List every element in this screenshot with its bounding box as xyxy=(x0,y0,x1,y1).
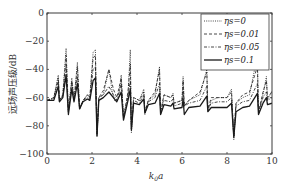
x-tick-label: 2 xyxy=(89,156,95,166)
x-tick-label: 0 xyxy=(44,156,50,166)
y-axis-label: 远场声压级/dB xyxy=(7,53,18,114)
y-tick-label: −80 xyxy=(25,121,44,131)
x-tick-label: 4 xyxy=(134,156,140,166)
y-tick-label: 0 xyxy=(38,8,44,18)
legend-label: ηs=0 xyxy=(224,16,247,26)
y-tick-label: −100 xyxy=(19,149,44,159)
x-tick-label: 10 xyxy=(266,156,278,166)
y-tick-label: −40 xyxy=(25,64,44,74)
x-axis-label-text: k0a xyxy=(149,171,164,182)
chart: 02468100−20−40−60−80−100 远场声压级/dB k0a ηs… xyxy=(0,0,283,186)
legend-label: ηs=0.01 xyxy=(224,29,260,39)
legend-label: ηs=0.05 xyxy=(224,42,260,52)
legend: ηs=0ηs=0.01ηs=0.05ηs=0.1 xyxy=(201,14,269,70)
y-tick-label: −20 xyxy=(25,36,44,46)
x-tick-label: 6 xyxy=(179,156,185,166)
y-axis-label-text: 远场声压级/dB xyxy=(7,53,18,114)
y-tick-label: −60 xyxy=(25,93,44,103)
legend-label: ηs=0.1 xyxy=(224,55,254,65)
x-tick-label: 8 xyxy=(224,156,230,166)
x-axis-label: k0a xyxy=(149,171,164,182)
